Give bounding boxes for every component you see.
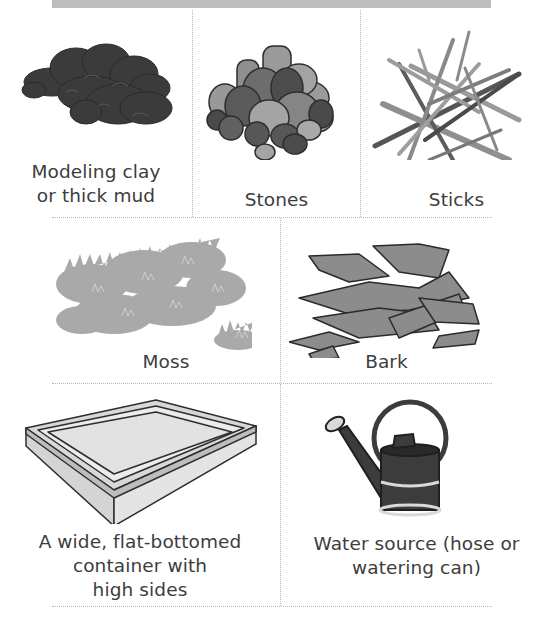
moss-icon	[52, 232, 252, 352]
clay-icon	[14, 36, 194, 136]
label-line: or thick mud	[0, 184, 192, 208]
label-line: watering can)	[281, 556, 552, 580]
material-card-stones: Stones	[193, 8, 360, 217]
material-card-water: Water source (hose or watering can)	[281, 384, 552, 606]
material-card-sticks: Sticks	[361, 8, 552, 217]
material-label: Modeling clay or thick mud	[0, 160, 192, 208]
label-line: Stones	[193, 188, 360, 212]
header-bar	[52, 0, 491, 8]
label-line: Modeling clay	[0, 160, 192, 184]
material-label: Bark	[281, 350, 492, 374]
sticks-icon	[369, 20, 529, 160]
material-card-container: A wide, flat-bottomed container with hig…	[0, 384, 280, 606]
material-label: A wide, flat-bottomed container with hig…	[0, 530, 280, 602]
stones-icon	[205, 40, 345, 160]
material-card-clay: Modeling clay or thick mud	[0, 8, 192, 217]
label-line: Sticks	[361, 188, 552, 212]
label-line: A wide, flat-bottomed	[0, 530, 280, 554]
label-line: Bark	[281, 350, 492, 374]
material-label: Water source (hose or watering can)	[281, 532, 552, 580]
row-divider	[52, 606, 492, 607]
label-line: Water source (hose or	[281, 532, 552, 556]
label-line: Moss	[52, 350, 280, 374]
label-line: container with	[0, 554, 280, 578]
material-card-bark: Bark	[281, 218, 492, 383]
material-label: Sticks	[361, 188, 552, 212]
material-label: Stones	[193, 188, 360, 212]
label-line: high sides	[0, 578, 280, 602]
material-card-moss: Moss	[52, 218, 280, 383]
material-label: Moss	[52, 350, 280, 374]
bark-icon	[289, 238, 489, 358]
watering-can-icon	[323, 398, 453, 518]
container-icon	[22, 394, 262, 524]
